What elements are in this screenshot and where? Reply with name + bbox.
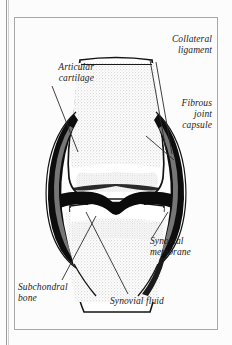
label-synovial-fluid: Synovial fluid xyxy=(110,296,186,307)
label-subchondral-bone: Subchondral bone xyxy=(18,282,98,304)
label-collateral-ligament: Collateral ligament xyxy=(126,34,212,56)
label-synovial-membrane: Synovial membrane xyxy=(150,236,216,258)
label-fibrous-joint-capsule: Fibrous joint capsule xyxy=(140,98,212,132)
figure-page: Articular cartilage Collateral ligament … xyxy=(0,0,232,345)
label-articular-cartilage: Articular cartilage xyxy=(16,62,94,84)
